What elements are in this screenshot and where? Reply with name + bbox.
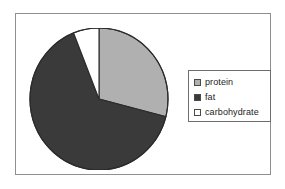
legend-item-protein[interactable]: protein: [194, 75, 266, 89]
legend-label-protein: protein: [205, 77, 233, 87]
legend-item-fat[interactable]: fat: [194, 90, 266, 104]
legend-swatch-fat: [194, 94, 201, 101]
pie-chart-svg: [29, 28, 169, 170]
pie-slices: [30, 28, 168, 170]
pie-chart: [29, 28, 169, 170]
legend-label-fat: fat: [205, 92, 215, 102]
legend-swatch-carbohydrate: [194, 109, 201, 116]
legend-swatch-protein: [194, 79, 201, 86]
figure-frame: protein fat carbohydrate: [15, 13, 271, 175]
legend-item-carbohydrate[interactable]: carbohydrate: [194, 105, 266, 119]
legend-label-carbohydrate: carbohydrate: [205, 107, 259, 117]
legend: protein fat carbohydrate: [188, 70, 271, 122]
